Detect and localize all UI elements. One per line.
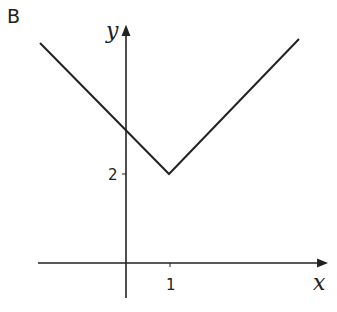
v-shaped-graph [40, 39, 299, 174]
chart: 1 2 x y [0, 0, 337, 312]
x-axis-label: x [313, 270, 326, 295]
y-axis-label: y [105, 18, 119, 43]
y-tick-label-2: 2 [108, 166, 118, 184]
x-tick-label-1: 1 [166, 276, 176, 294]
